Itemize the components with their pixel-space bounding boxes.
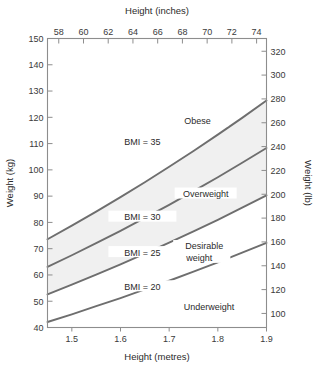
ytick-label-right: 240 bbox=[271, 142, 286, 152]
ytick-label-right: 100 bbox=[271, 309, 286, 319]
xtick-label-top: 60 bbox=[78, 27, 88, 37]
xtick-label-top: 70 bbox=[202, 27, 212, 37]
xtick-label-top: 72 bbox=[227, 27, 237, 37]
ytick-label-right: 120 bbox=[271, 285, 286, 295]
ytick-label-left: 140 bbox=[28, 60, 43, 70]
ytick-label-right: 180 bbox=[271, 213, 286, 223]
xtick-label-bottom: 1.5 bbox=[66, 334, 79, 344]
ytick-label-left: 150 bbox=[28, 34, 43, 44]
ytick-label-right: 140 bbox=[271, 261, 286, 271]
left-axis-title: Weight (kg) bbox=[4, 159, 15, 207]
xtick-label-bottom: 1.8 bbox=[212, 334, 225, 344]
bmi-label-35: BMI = 35 bbox=[124, 137, 160, 147]
ytick-label-left: 70 bbox=[33, 244, 43, 254]
ytick-label-left: 130 bbox=[28, 86, 43, 96]
bmi-label-20: BMI = 20 bbox=[124, 282, 160, 292]
xtick-label-top: 62 bbox=[103, 27, 113, 37]
ytick-label-right: 280 bbox=[271, 94, 286, 104]
bmi-chart: 1.51.61.71.81.95860626466687072744050607… bbox=[0, 0, 318, 372]
bmi-chart-svg: 1.51.61.71.81.95860626466687072744050607… bbox=[0, 0, 318, 372]
bottom-axis-title: Height (metres) bbox=[124, 351, 189, 362]
annotation-desirable-weight-line1: Desirable bbox=[185, 241, 223, 251]
xtick-label-top: 64 bbox=[128, 27, 138, 37]
bmi-label-25: BMI = 25 bbox=[124, 248, 160, 258]
ytick-label-right: 160 bbox=[271, 237, 286, 247]
ytick-label-left: 110 bbox=[29, 139, 43, 149]
xtick-label-top: 58 bbox=[54, 27, 64, 37]
right-axis-title: Weight (lb) bbox=[303, 160, 314, 206]
annotation-underweight: Underweight bbox=[184, 302, 235, 312]
ytick-label-right: 260 bbox=[271, 118, 286, 128]
ytick-label-right: 300 bbox=[271, 70, 286, 80]
annotation-overweight: Overweight bbox=[183, 189, 229, 199]
ytick-label-left: 120 bbox=[28, 113, 43, 123]
xtick-label-top: 68 bbox=[177, 27, 187, 37]
annotation-desirable-weight-line2: weight bbox=[185, 253, 213, 263]
ytick-label-left: 100 bbox=[28, 165, 43, 175]
ytick-label-right: 200 bbox=[271, 190, 286, 200]
ytick-label-left: 80 bbox=[33, 218, 43, 228]
xtick-label-top: 66 bbox=[153, 27, 163, 37]
xtick-label-bottom: 1.7 bbox=[163, 334, 176, 344]
ytick-label-left: 50 bbox=[33, 297, 43, 307]
ytick-label-left: 90 bbox=[33, 191, 43, 201]
bmi-label-30: BMI = 30 bbox=[124, 212, 160, 222]
xtick-label-top: 74 bbox=[252, 27, 262, 37]
ytick-label-right: 220 bbox=[271, 166, 286, 176]
ytick-label-right: 320 bbox=[271, 47, 286, 57]
ytick-label-left: 60 bbox=[33, 270, 43, 280]
ytick-label-left: 40 bbox=[33, 323, 43, 333]
annotation-obese: Obese bbox=[184, 116, 211, 126]
top-axis-title: Height (inches) bbox=[125, 5, 189, 16]
xtick-label-bottom: 1.6 bbox=[114, 334, 127, 344]
xtick-label-bottom: 1.9 bbox=[260, 334, 273, 344]
